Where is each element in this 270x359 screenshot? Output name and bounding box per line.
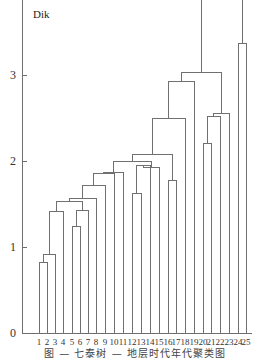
dendrogram-link bbox=[94, 174, 114, 333]
dendrogram-link bbox=[207, 116, 220, 333]
y-tick-label: 1 bbox=[10, 240, 16, 254]
axes: 0123 bbox=[10, 0, 252, 340]
dendrogram-link bbox=[168, 181, 176, 333]
y-tick-label: 2 bbox=[10, 154, 16, 168]
dendrogram-chart: 0123 12345678910111213141516171819202122… bbox=[0, 0, 270, 359]
dendrogram-link bbox=[69, 199, 96, 333]
dendrogram-link bbox=[152, 118, 185, 333]
dendrogram-link bbox=[49, 212, 63, 333]
dendrogram-link bbox=[76, 210, 88, 333]
dendrogram-links bbox=[39, 0, 246, 333]
dendrogram-link bbox=[203, 144, 211, 333]
dendrogram-link bbox=[169, 81, 194, 333]
dendrogram-link bbox=[72, 226, 80, 333]
dendrogram-link bbox=[39, 262, 47, 333]
dendrogram-link bbox=[214, 114, 230, 333]
y-tick-label: 0 bbox=[10, 326, 16, 340]
dendrogram-link bbox=[104, 172, 123, 333]
figure-caption: 图 — 七泰树 — 地层时代年代聚类图 bbox=[0, 346, 270, 359]
y-axis-label: Dik bbox=[33, 8, 50, 20]
dendrogram-link bbox=[83, 185, 106, 333]
dendrogram-link bbox=[181, 72, 221, 113]
dendrogram-link bbox=[143, 165, 159, 333]
dendrogram-link bbox=[137, 165, 151, 333]
dendrogram-link bbox=[132, 194, 141, 333]
dendrogram-link bbox=[238, 43, 246, 333]
dendrogram-link bbox=[43, 255, 55, 333]
y-tick-label: 3 bbox=[10, 68, 16, 82]
